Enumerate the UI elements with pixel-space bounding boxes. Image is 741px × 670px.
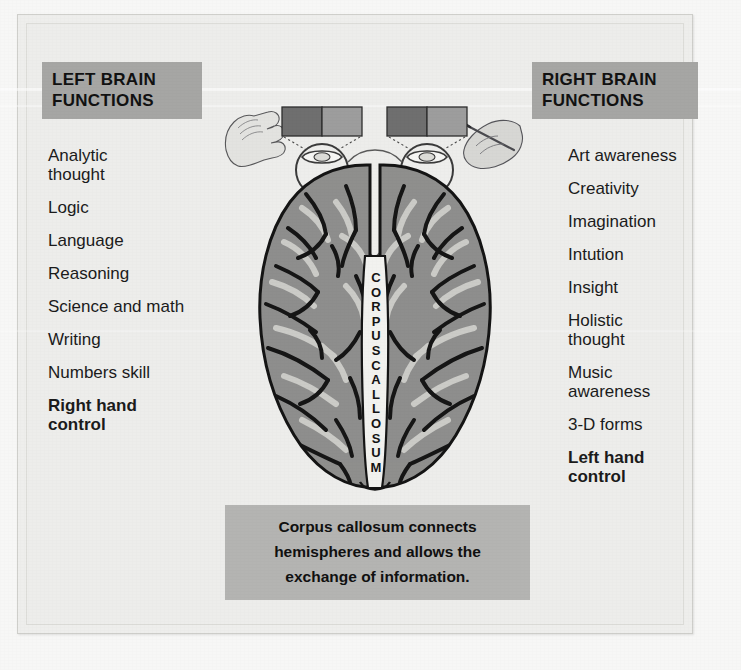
list-item: Holistic thought	[568, 311, 738, 349]
caption-box: Corpus callosum connects hemispheres and…	[225, 505, 530, 600]
caption-line: hemispheres and allows the	[231, 539, 524, 564]
figure-page: LEFT BRAIN FUNCTIONS RIGHT BRAIN FUNCTIO…	[0, 0, 741, 670]
right-brain-function-list: Art awareness Creativity Imagination Int…	[568, 146, 738, 500]
hand-holding-pen-icon	[462, 120, 523, 168]
list-item: Insight	[568, 278, 738, 297]
right-visual-field-bar	[387, 107, 467, 136]
caption-line: Corpus callosum connects	[231, 514, 524, 539]
left-visual-field-bar	[282, 107, 362, 136]
list-item: Creativity	[568, 179, 738, 198]
svg-text:CORPUSCALLOSUM: CORPUSCALLOSUM	[371, 270, 382, 475]
caption-line: exchange of information.	[231, 564, 524, 589]
right-hemisphere	[380, 165, 490, 487]
left-hemisphere	[260, 165, 370, 487]
brain-diagram: CORPUSCALLOSUM	[210, 90, 540, 510]
corpus-callosum: CORPUSCALLOSUM	[362, 256, 388, 488]
open-hand-icon	[225, 111, 285, 166]
list-item: Intution	[568, 245, 738, 264]
left-brain-functions-header: LEFT BRAIN FUNCTIONS	[42, 62, 202, 119]
list-item: Art awareness	[568, 146, 738, 165]
list-item: Left hand control	[568, 448, 738, 486]
right-brain-functions-header: RIGHT BRAIN FUNCTIONS	[532, 62, 698, 119]
list-item: Music awareness	[568, 363, 738, 401]
list-item: 3-D forms	[568, 415, 738, 434]
list-item: Imagination	[568, 212, 738, 231]
